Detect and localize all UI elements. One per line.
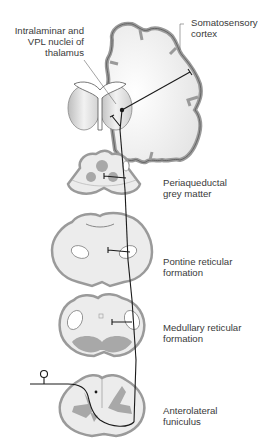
pathway-diagram: [0, 0, 277, 447]
thalamus: [68, 82, 132, 130]
label-line: funiculus: [163, 416, 217, 427]
label-line: formation: [163, 267, 232, 278]
label-line: VPL nuclei of: [4, 36, 84, 47]
medulla-section: [60, 294, 145, 356]
label-line: Somatosensory: [191, 17, 258, 28]
label-line: cortex: [191, 28, 258, 39]
pons-section: [52, 213, 152, 286]
thalamic-nucleus-dot: [120, 108, 124, 112]
label-anterolateral: Anterolateral funiculus: [163, 405, 217, 427]
label-line: Intralaminar and: [4, 25, 84, 36]
label-line: Periaqueductal: [163, 177, 227, 188]
label-line: thalamus: [4, 47, 84, 58]
label-periaqueductal: Periaqueductal grey matter: [163, 177, 227, 199]
label-line: grey matter: [163, 188, 227, 199]
label-thalamus: Intralaminar and VPL nuclei of thalamus: [4, 25, 84, 58]
label-pontine: Pontine reticular formation: [163, 256, 232, 278]
label-line: Anterolateral: [163, 405, 217, 416]
label-cortex: Somatosensory cortex: [191, 17, 258, 39]
label-line: Pontine reticular: [163, 256, 232, 267]
label-medullary: Medullary reticular formation: [163, 322, 241, 344]
label-line: Medullary reticular: [163, 322, 241, 333]
label-line: formation: [163, 333, 241, 344]
